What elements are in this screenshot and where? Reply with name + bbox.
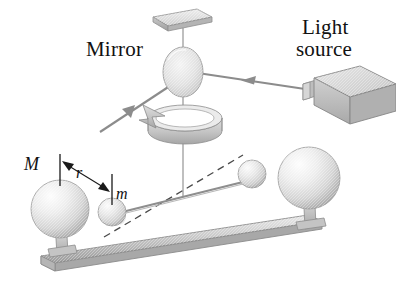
label-light-source-line1: Light xyxy=(302,15,349,39)
small-sphere-right xyxy=(238,160,266,188)
label-light-source: Lightsource xyxy=(302,16,352,60)
rotation-indicator xyxy=(139,105,222,144)
torsion-rod xyxy=(114,179,255,216)
light-source-box xyxy=(303,66,396,124)
large-sphere-right xyxy=(278,147,340,209)
incident-light-ray xyxy=(191,72,305,89)
ceiling-mount-plate xyxy=(153,9,212,31)
label-light-source-line2: source xyxy=(296,38,352,60)
mirror-disc xyxy=(163,47,203,97)
label-large-mass-M: M xyxy=(24,155,39,174)
label-small-mass-m: m xyxy=(116,186,128,203)
label-mirror: Mirror xyxy=(86,38,143,60)
large-sphere-left xyxy=(31,180,89,238)
physics-diagram-cavendish-balance: Mirror Lightsource M r m xyxy=(0,0,396,281)
label-separation-r: r xyxy=(76,165,82,182)
